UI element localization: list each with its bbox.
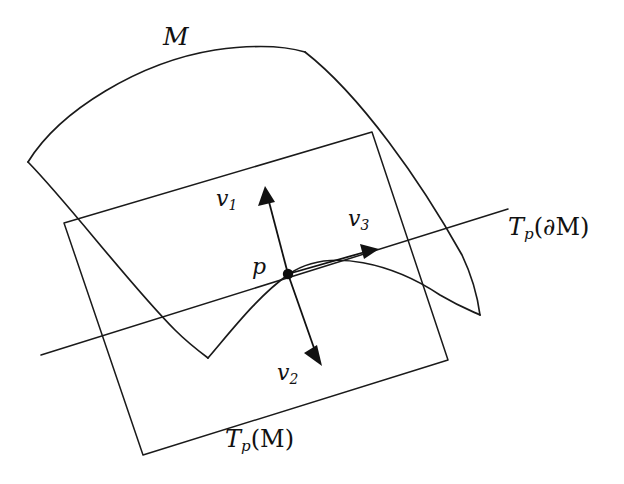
label-v2-base: v bbox=[277, 360, 289, 385]
vector-v3-arrowhead bbox=[360, 244, 379, 259]
label-v1-base: v bbox=[216, 186, 228, 211]
label-v3-subscript: 3 bbox=[360, 217, 369, 233]
label-tangent-manifold: Tp(M) bbox=[225, 427, 294, 454]
label-point-p: p bbox=[252, 256, 266, 278]
vector-v3 bbox=[288, 244, 379, 274]
label-tp-m-arg: (M) bbox=[251, 425, 294, 453]
tangent-boundary-line-group bbox=[41, 209, 508, 355]
figure-canvas: M v1 v2 v3 p Tp(∂M) Tp(M) bbox=[0, 0, 624, 484]
tangent-boundary-line bbox=[41, 209, 508, 355]
label-vector-v1: v1 bbox=[216, 188, 237, 213]
manifold-left-edge bbox=[28, 162, 208, 358]
label-tp-m-base: T bbox=[225, 425, 241, 453]
label-v1-subscript: 1 bbox=[228, 197, 237, 213]
point-p-dot bbox=[283, 269, 293, 279]
label-tp-dm-arg: (∂M) bbox=[534, 213, 590, 241]
label-v3-base: v bbox=[348, 206, 360, 231]
manifold-boundary-curve bbox=[208, 260, 480, 358]
label-tp-m-subscript: p bbox=[241, 437, 251, 455]
manifold-right-edge bbox=[305, 52, 480, 315]
vector-v2-shaft bbox=[288, 274, 314, 348]
manifold-surface bbox=[28, 46, 480, 358]
label-tangent-boundary: Tp(∂M) bbox=[508, 215, 589, 242]
tangent-plane-outline bbox=[64, 132, 448, 455]
label-v2-subscript: 2 bbox=[289, 371, 298, 387]
label-tp-dm-base: T bbox=[508, 213, 524, 241]
label-manifold-M: M bbox=[163, 24, 189, 49]
vector-v1-shaft bbox=[268, 198, 288, 274]
vector-v3-shaft bbox=[288, 252, 365, 274]
vector-v2 bbox=[288, 274, 322, 366]
vector-v2-arrowhead bbox=[304, 345, 322, 366]
label-tp-dm-subscript: p bbox=[524, 225, 534, 243]
vector-v1-arrowhead bbox=[258, 186, 275, 206]
label-vector-v2: v2 bbox=[277, 362, 298, 387]
label-vector-v3: v3 bbox=[348, 208, 369, 233]
manifold-top-edge bbox=[28, 46, 305, 162]
tangent-plane-parallelogram bbox=[64, 132, 448, 455]
